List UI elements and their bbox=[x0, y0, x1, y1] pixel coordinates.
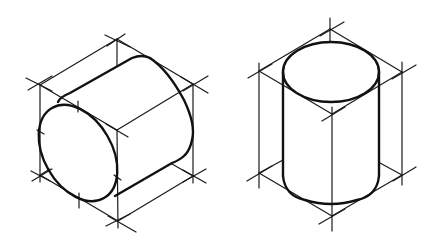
diagram-canvas bbox=[0, 0, 445, 241]
horizontal-cylinder-drawing bbox=[23, 34, 208, 232]
construction-box-left bbox=[26, 34, 208, 232]
cylinder-body-right bbox=[283, 42, 379, 204]
construction-box-right bbox=[247, 18, 416, 231]
vertical-cylinder-drawing bbox=[247, 18, 416, 231]
